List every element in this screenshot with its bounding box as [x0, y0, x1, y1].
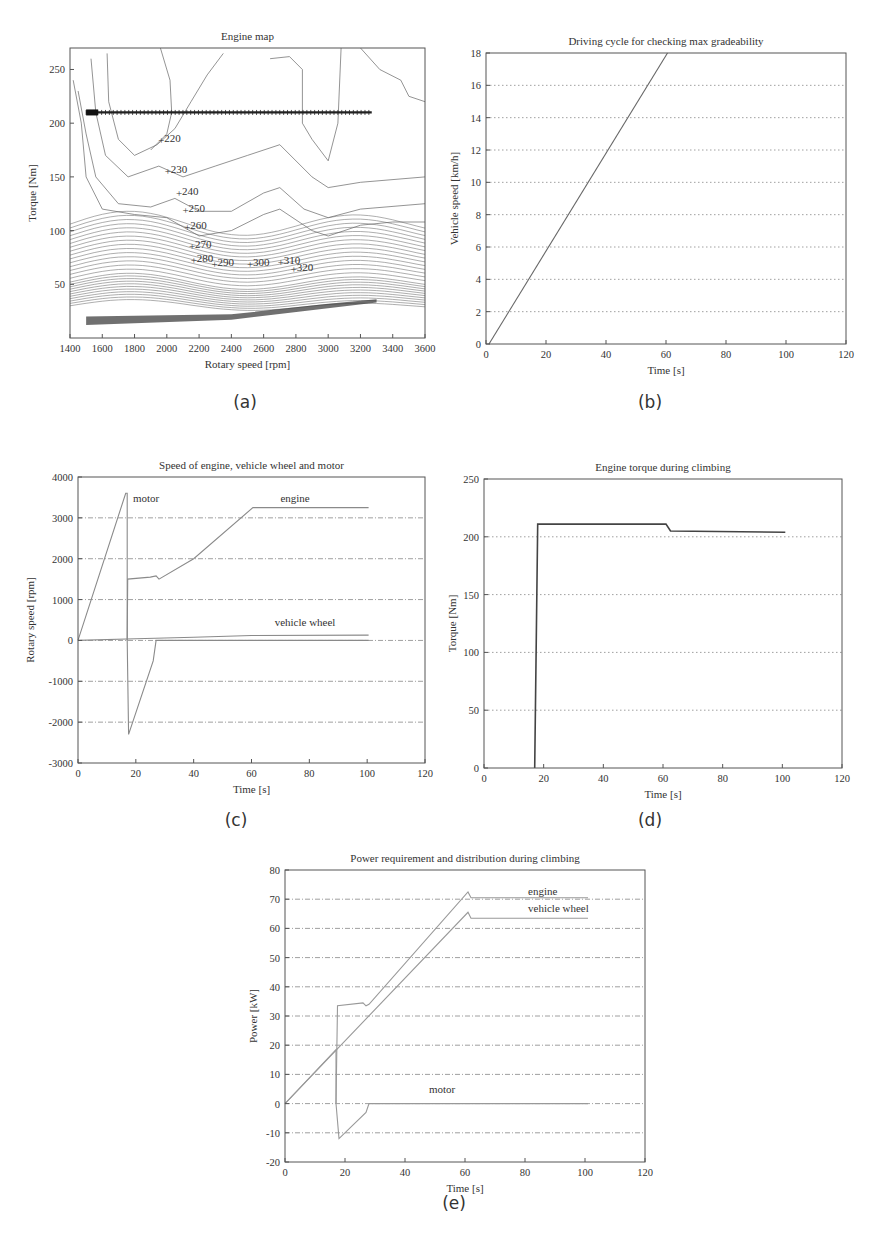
contour-line [70, 211, 425, 235]
series-engine-torque [535, 524, 786, 768]
x-tick-label: 0 [483, 349, 488, 360]
contour-label: 240 [182, 185, 199, 197]
x-tick-label: 80 [717, 773, 728, 784]
contour-line [270, 48, 341, 161]
x-tick-label: 0 [481, 773, 486, 784]
x-tick-label: 0 [282, 1167, 287, 1178]
y-tick-label: 16 [471, 80, 482, 91]
plot-frame [484, 479, 842, 768]
caption-b: (b) [638, 392, 662, 412]
contour-lines [70, 48, 425, 325]
x-tick-label: 100 [577, 1167, 593, 1178]
contour-line [70, 236, 425, 257]
x-tick-label: 40 [400, 1167, 411, 1178]
y-tick-label: 18 [471, 48, 482, 59]
engine-map-chart: Engine map+220+230+240+250+260+270+280+2… [0, 0, 436, 420]
contour-line [361, 48, 426, 102]
chart-panel-c: Speed of engine, vehicle wheel and motor… [0, 420, 436, 840]
contour-label: 300 [253, 256, 270, 268]
y-axis-label: Rotary speed [rpm] [24, 577, 36, 663]
series-engine [336, 892, 588, 1104]
contour-label: 220 [164, 132, 181, 144]
x-tick-label: 2800 [285, 343, 306, 354]
x-tick-label: 2400 [221, 343, 242, 354]
y-tick-label: -2000 [49, 717, 74, 728]
y-tick-label: 0 [476, 339, 481, 350]
y-tick-label: 14 [471, 113, 482, 124]
x-axis-label: Time [s] [644, 788, 681, 800]
x-tick-label: 2200 [189, 343, 210, 354]
series-label: motor [133, 492, 160, 504]
y-tick-label: 4 [476, 274, 482, 285]
y-tick-label: 100 [463, 647, 479, 658]
x-tick-label: 0 [75, 768, 80, 779]
series-label: engine [528, 885, 557, 897]
y-tick-label: -20 [266, 1157, 280, 1168]
x-tick-label: 40 [601, 349, 612, 360]
x-tick-label: 20 [538, 773, 549, 784]
x-tick-label: 20 [541, 349, 552, 360]
chart-title: Power requirement and distribution durin… [350, 852, 580, 864]
y-tick-label: 10 [270, 1069, 281, 1080]
series-label: vehicle wheel [275, 616, 336, 628]
y-tick-label: 80 [270, 865, 281, 876]
x-axis-label: Time [s] [647, 364, 684, 376]
x-tick-label: 60 [661, 349, 672, 360]
series-vehicle-speed [489, 53, 668, 344]
plot-frame [78, 477, 425, 763]
x-tick-label: 100 [774, 773, 790, 784]
y-axis-label: Torque [Nm] [446, 595, 458, 653]
x-tick-label: 3600 [415, 343, 436, 354]
x-tick-label: 100 [359, 768, 375, 779]
x-tick-label: 20 [131, 768, 142, 779]
x-tick-label: 40 [598, 773, 609, 784]
x-tick-label: 20 [340, 1167, 351, 1178]
y-axis-label: Vehicle speed [km/h] [448, 152, 460, 245]
y-tick-label: 250 [49, 64, 65, 75]
x-tick-label: 3400 [382, 343, 403, 354]
series-label: vehicle wheel [528, 902, 589, 914]
contour-label: 290 [218, 256, 235, 268]
x-tick-label: 120 [637, 1167, 653, 1178]
y-tick-label: 50 [469, 705, 480, 716]
y-tick-label: 60 [270, 923, 281, 934]
y-tick-label: -10 [266, 1128, 280, 1139]
x-tick-label: 80 [721, 349, 732, 360]
contour-label: 250 [189, 202, 206, 214]
x-tick-label: 80 [304, 768, 315, 779]
y-tick-label: 1000 [52, 595, 73, 606]
caption-e: (e) [442, 1193, 466, 1213]
x-tick-label: 2000 [156, 343, 177, 354]
y-tick-label: 20 [270, 1040, 281, 1051]
y-tick-label: 50 [55, 279, 66, 290]
chart-panel-d: Engine torque during climbing02040608010… [436, 420, 872, 840]
y-tick-label: 50 [270, 953, 281, 964]
x-tick-label: 2600 [253, 343, 274, 354]
y-tick-label: 30 [270, 1011, 281, 1022]
x-tick-label: 1600 [92, 343, 113, 354]
x-tick-label: 120 [838, 349, 854, 360]
contour-label: 320 [297, 261, 314, 273]
x-tick-label: 80 [520, 1167, 531, 1178]
caption-a: (a) [233, 392, 257, 412]
x-axis-label: Rotary speed [rpm] [205, 358, 291, 370]
y-tick-label: 10 [471, 177, 482, 188]
chart-title: Engine map [221, 30, 274, 42]
x-tick-label: 1400 [60, 343, 81, 354]
y-tick-label: 12 [471, 145, 482, 156]
contour-line [73, 80, 425, 236]
plot-frame [486, 53, 846, 344]
y-tick-label: 2000 [52, 554, 73, 565]
operating-point-cluster [86, 109, 98, 115]
rotary-speed-chart: Speed of engine, vehicle wheel and motor… [0, 420, 436, 840]
x-tick-label: 60 [658, 773, 669, 784]
y-tick-label: 150 [49, 172, 65, 183]
y-tick-label: 70 [270, 894, 281, 905]
y-tick-label: 3000 [52, 513, 73, 524]
series-label: engine [280, 492, 309, 504]
y-tick-label: 200 [463, 532, 479, 543]
x-tick-label: 1800 [124, 343, 145, 354]
y-tick-label: 4000 [52, 472, 73, 483]
y-axis-label: Power [kW] [247, 989, 259, 1043]
x-tick-label: 120 [417, 768, 433, 779]
